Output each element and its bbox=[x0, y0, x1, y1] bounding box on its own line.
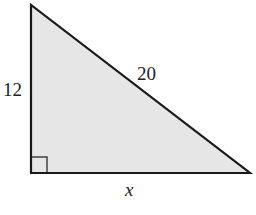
right-triangle bbox=[31, 5, 250, 173]
hypotenuse-label: 20 bbox=[137, 64, 156, 83]
horizontal-leg-label: x bbox=[125, 180, 133, 199]
vertical-leg-label: 12 bbox=[3, 80, 22, 99]
diagram: 12 20 x bbox=[0, 0, 256, 215]
